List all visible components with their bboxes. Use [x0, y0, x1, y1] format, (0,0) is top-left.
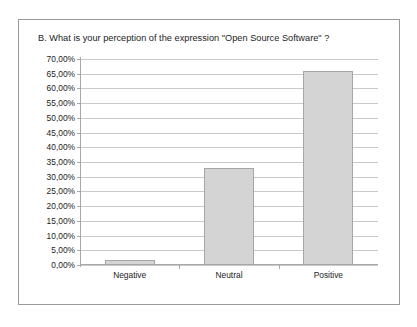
bar-neutral	[204, 168, 254, 265]
y-axis-tick-label: 25,00%	[47, 186, 75, 196]
y-axis-tick-mark	[77, 147, 81, 148]
y-axis-tick-labels: 70,00%65,00%60,00%55,00%50,00%45,00%40,0…	[19, 59, 75, 265]
x-axis-category-label: Neutral	[216, 270, 243, 280]
y-axis-tick-mark	[77, 133, 81, 134]
y-axis-tick-label: 40,00%	[47, 142, 75, 152]
x-axis-tick-mark	[279, 264, 280, 269]
y-axis-tick-label: 65,00%	[47, 69, 75, 79]
x-axis-category-label: Negative	[113, 270, 146, 280]
y-axis-tick-label: 50,00%	[47, 113, 75, 123]
y-axis-tick-mark	[77, 236, 81, 237]
y-axis-tick-label: 20,00%	[47, 201, 75, 211]
x-axis-category-label: Positive	[314, 270, 343, 280]
y-axis-tick-label: 70,00%	[47, 54, 75, 64]
y-axis-tick-mark	[77, 59, 81, 60]
y-axis-tick-mark	[77, 191, 81, 192]
y-axis-tick-label: 0,00%	[51, 260, 75, 270]
y-axis-tick-mark	[77, 250, 81, 251]
y-axis-tick-mark	[77, 162, 81, 163]
y-axis-tick-label: 60,00%	[47, 83, 75, 93]
y-axis-tick-label: 45,00%	[47, 128, 75, 138]
bar-negative	[105, 260, 155, 265]
gridline	[80, 265, 378, 266]
chart-title: B. What is your perception of the expres…	[38, 33, 329, 43]
gridline	[80, 59, 378, 60]
y-axis-tick-mark	[77, 74, 81, 75]
chart-frame: B. What is your perception of the expres…	[18, 19, 400, 305]
y-axis-tick-mark	[77, 118, 81, 119]
y-axis-tick-label: 35,00%	[47, 157, 75, 167]
y-axis-tick-label: 30,00%	[47, 172, 75, 182]
y-axis-tick-label: 55,00%	[47, 98, 75, 108]
y-axis-tick-label: 5,00%	[51, 245, 75, 255]
x-axis-tick-mark	[179, 264, 180, 269]
y-axis-tick-label: 15,00%	[47, 216, 75, 226]
y-axis-tick-mark	[77, 177, 81, 178]
plot-area	[80, 59, 378, 265]
y-axis-tick-mark	[77, 206, 81, 207]
y-axis-tick-mark	[77, 221, 81, 222]
y-axis-tick-label: 10,00%	[47, 231, 75, 241]
bar-positive	[303, 71, 353, 265]
y-axis-tick-mark	[77, 88, 81, 89]
y-axis-tick-mark	[77, 265, 81, 266]
y-axis-tick-mark	[77, 103, 81, 104]
